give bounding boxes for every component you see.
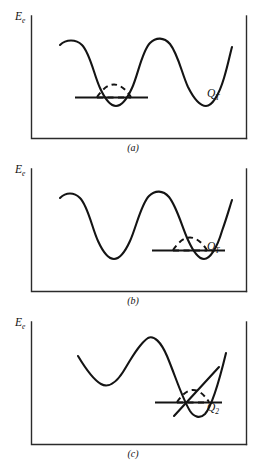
panel-b-axes <box>32 169 247 292</box>
panel-c-energy-curve <box>78 337 226 417</box>
panel-c-plot <box>0 306 266 463</box>
panel-c-x-axis-label: Q2 <box>207 402 219 416</box>
panel-c-y-axis-label: Ee <box>15 317 25 331</box>
panel-b-y-axis-label: Ee <box>15 164 25 178</box>
panel-b-caption: (b) <box>0 296 266 306</box>
panel-b-x-axis-label: QT <box>207 241 219 255</box>
panel-a-axes <box>32 16 247 139</box>
panel-a-x-axis-label: QT <box>207 88 219 102</box>
panel-b-plot <box>0 153 266 307</box>
panel-a-plot <box>0 0 266 154</box>
panel-c-axes <box>32 322 247 445</box>
panel-c-caption: (c) <box>0 449 266 459</box>
potential-energy-figure: Ee QT (a) Ee QT (b) <box>0 0 266 463</box>
panel-a: Ee QT (a) <box>0 0 266 154</box>
panel-a-caption: (a) <box>0 143 266 153</box>
panel-b: Ee QT (b) <box>0 153 266 307</box>
panel-a-y-axis-label: Ee <box>15 11 25 25</box>
panel-c: Ee Q2 (c) <box>0 306 266 460</box>
